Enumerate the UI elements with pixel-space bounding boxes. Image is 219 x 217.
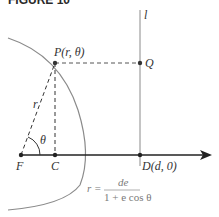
label-c: C (51, 159, 60, 173)
conic-curve (8, 38, 86, 210)
dashed-radius (21, 63, 55, 155)
point-focus (19, 153, 23, 157)
directrix-label: l (144, 8, 148, 22)
label-theta: θ (40, 133, 46, 147)
label-f: F (15, 159, 24, 173)
formula-lhs: r = (87, 182, 101, 194)
point-c (53, 153, 57, 157)
label-q: Q (145, 56, 154, 70)
point-p (53, 61, 57, 65)
label-p: P(r, θ) (53, 45, 85, 59)
point-q (138, 61, 142, 65)
point-d (138, 153, 142, 157)
conic-diagram: FIGURE 10 l P(r, θ) Q r θ F C D(d, 0) r … (0, 0, 219, 217)
angle-arc (28, 137, 40, 155)
figure-title: FIGURE 10 (8, 0, 70, 7)
formula-denominator: 1 + e cos θ (104, 191, 152, 203)
label-d: D(d, 0) (141, 159, 177, 173)
formula-numerator: de (118, 176, 129, 188)
label-r: r (33, 97, 38, 111)
